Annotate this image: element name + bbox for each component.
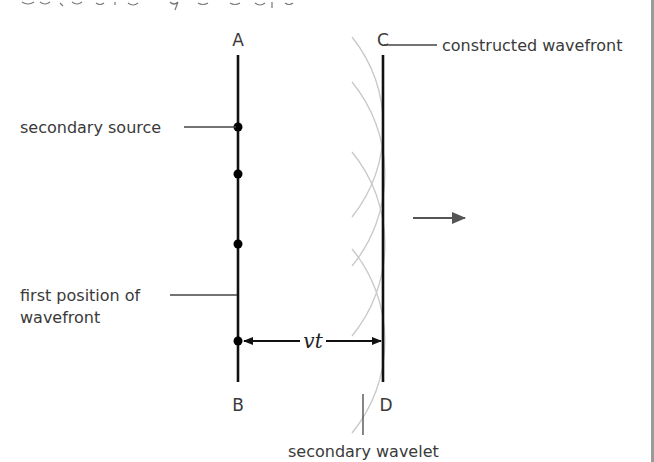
clipped-caption (20, 0, 295, 10)
diagram-canvas: A B C D constructed wavefront secondary … (0, 0, 654, 462)
point-label-B: B (232, 395, 244, 415)
wavelet-arc-1 (352, 37, 383, 217)
label-constructed-wavefront: constructed wavefront (442, 36, 622, 55)
point-label-A: A (232, 30, 244, 50)
source-dot-4 (234, 337, 243, 346)
wavelet-arc-3 (352, 152, 385, 336)
label-distance-vt: vt (303, 329, 323, 353)
label-secondary-wavelet: secondary wavelet (288, 442, 439, 461)
wavelet-arc-2 (352, 82, 385, 266)
point-label-C: C (377, 30, 389, 50)
label-first-position-line2: wavefront (20, 308, 100, 327)
secondary-wavelets (352, 37, 385, 433)
huygens-construction-diagram: A B C D constructed wavefront secondary … (0, 0, 654, 462)
label-secondary-source: secondary source (20, 118, 161, 137)
label-first-position-line1: first position of (20, 286, 141, 305)
source-dot-3 (234, 240, 243, 249)
point-label-D: D (379, 395, 392, 415)
source-dot-2 (234, 170, 243, 179)
